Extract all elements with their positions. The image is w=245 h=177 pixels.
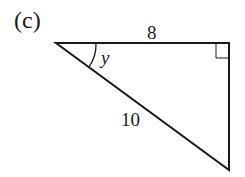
side-label-hypotenuse: 10 xyxy=(121,109,140,130)
angle-label-y: y xyxy=(99,47,110,68)
side-label-top: 8 xyxy=(147,22,157,43)
angle-arc xyxy=(89,43,96,67)
right-angle-marker xyxy=(216,43,229,58)
triangle-diagram: (c) y 8 10 xyxy=(0,0,245,177)
right-triangle xyxy=(56,43,229,170)
part-label: (c) xyxy=(14,7,41,33)
